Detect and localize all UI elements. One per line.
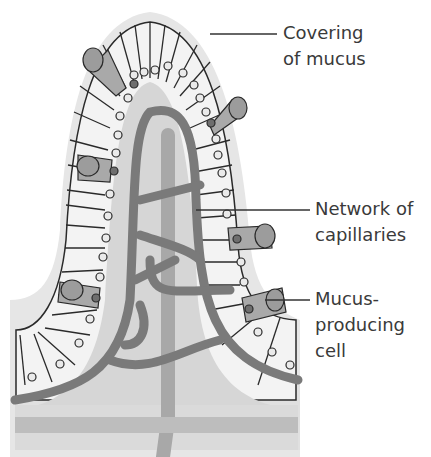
label-line: Network of (315, 196, 413, 222)
label-line: Mucus- (315, 286, 405, 312)
label-line: Covering (283, 20, 366, 46)
label-mucus-covering: Covering of mucus (283, 20, 366, 72)
label-line: cell (315, 338, 405, 364)
label-line: producing (315, 312, 405, 338)
label-mucus-cell: Mucus- producing cell (315, 286, 405, 364)
label-line: capillaries (315, 222, 413, 248)
label-capillaries: Network of capillaries (315, 196, 413, 248)
label-line: of mucus (283, 46, 366, 72)
